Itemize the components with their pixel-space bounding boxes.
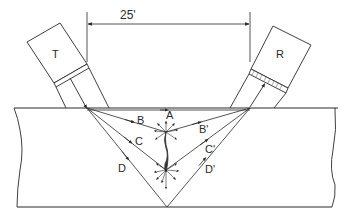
receiver-label: R <box>276 48 284 60</box>
dimension-label: 25' <box>120 8 136 22</box>
crack-defect <box>165 132 169 172</box>
ray-C-label: C <box>135 135 143 147</box>
ray-D-prime-label: D' <box>205 163 215 175</box>
incoming-rays <box>87 108 167 207</box>
ray-B-label: B <box>137 114 144 126</box>
ray-A-label: A <box>166 109 174 121</box>
tofd-diagram: 25' T R A <box>0 0 347 220</box>
ray-D-label: D <box>118 162 126 174</box>
ray-C-prime-label: C' <box>205 143 215 155</box>
receiver-probe: R <box>230 26 311 108</box>
transmitter-probe: T <box>27 23 109 108</box>
ray-B-prime-label: B' <box>199 123 208 135</box>
dimension-indicator: 25' <box>87 8 250 62</box>
transmitter-label: T <box>52 48 59 60</box>
test-plate <box>14 108 338 207</box>
diffraction-burst-top <box>155 122 177 139</box>
